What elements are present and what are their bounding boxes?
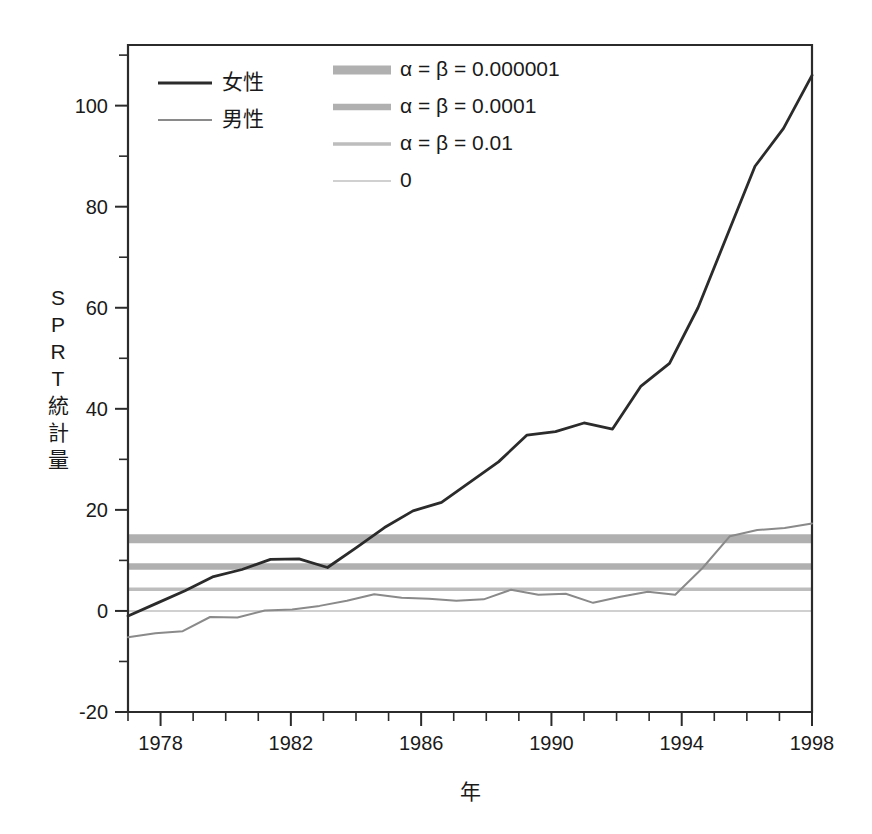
y-tick-label: 40 xyxy=(86,398,108,420)
x-tick-label: 1982 xyxy=(269,732,314,754)
y-axis-title-char: T xyxy=(52,367,65,390)
y-tick-label: -20 xyxy=(79,701,108,723)
y-tick-label: 80 xyxy=(86,196,108,218)
y-axis-title-char: 量 xyxy=(48,448,69,471)
x-tick-label: 1990 xyxy=(529,732,574,754)
chart-canvas: -20020406080100197819821986199019941998 … xyxy=(0,0,872,834)
x-tick-label: 1978 xyxy=(138,732,183,754)
x-tick-label: 1994 xyxy=(659,732,704,754)
y-tick-label: 20 xyxy=(86,499,108,521)
legend-threshold-label: α = β = 0.0001 xyxy=(400,94,536,117)
legend-threshold-label: 0 xyxy=(400,168,412,191)
legend-series-label: 男性 xyxy=(222,107,264,130)
y-axis-title-char: 計 xyxy=(48,421,69,444)
y-tick-label: 60 xyxy=(86,297,108,319)
y-axis-title-char: P xyxy=(51,313,65,336)
y-axis-title-char: 統 xyxy=(48,394,69,417)
x-axis-title: 年 xyxy=(460,780,481,803)
x-tick-label: 1986 xyxy=(399,732,444,754)
y-axis-title-char: R xyxy=(50,340,65,363)
sprt-chart-figure: -20020406080100197819821986199019941998 … xyxy=(0,0,872,834)
y-tick-label: 0 xyxy=(97,600,108,622)
y-axis-title-char: S xyxy=(51,286,65,309)
chart-background xyxy=(0,0,872,834)
x-tick-label: 1998 xyxy=(790,732,835,754)
y-tick-label: 100 xyxy=(75,95,108,117)
legend-threshold-label: α = β = 0.01 xyxy=(400,131,513,154)
legend-series-label: 女性 xyxy=(222,70,264,93)
legend-threshold-label: α = β = 0.000001 xyxy=(400,57,560,80)
